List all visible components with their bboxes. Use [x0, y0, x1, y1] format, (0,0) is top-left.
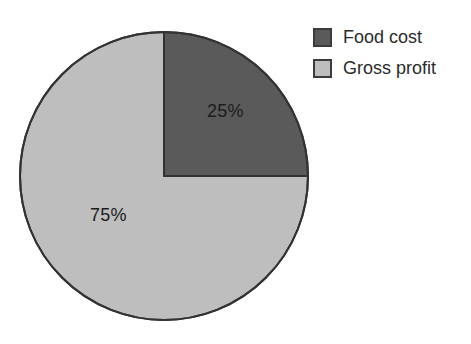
legend-swatch-icon-food-cost [313, 28, 332, 47]
legend-label-food-cost: Food cost [343, 27, 422, 47]
slice-label-gross-profit: 75% [90, 205, 127, 226]
legend-item-gross-profit[interactable]: Gross profit [313, 58, 436, 78]
chart-legend: Food cost Gross profit [313, 27, 436, 78]
legend-swatch-icon-gross-profit [313, 59, 332, 78]
pie-chart-figure: 25% 75% Food cost Gross profit [0, 0, 471, 344]
slice-label-food-cost: 25% [207, 101, 244, 122]
legend-item-food-cost[interactable]: Food cost [313, 27, 436, 47]
legend-label-gross-profit: Gross profit [343, 58, 436, 78]
